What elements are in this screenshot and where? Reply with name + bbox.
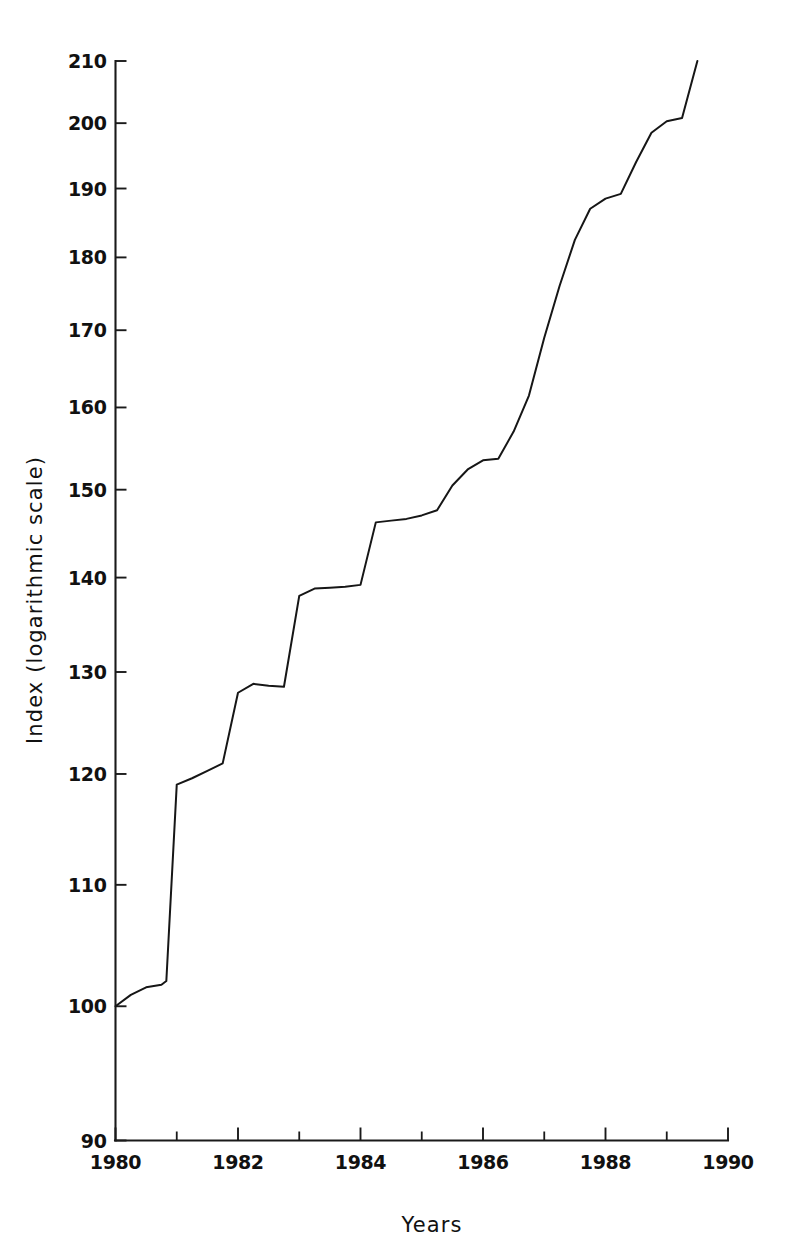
y-tick-label-160: 160 [68,396,107,418]
y-axis-title: Index (logarithmic scale) [23,456,47,744]
y-tick-label-110: 110 [68,874,107,896]
y-tick-label-210: 210 [68,50,107,72]
chart-plot-area: 90100110120130140150160170180190200210 1… [0,0,810,1250]
y-tick-label-90: 90 [81,1130,107,1152]
x-tick-label-1984: 1984 [335,1151,386,1173]
x-axis-tick-labels: 198019821984198619881990 [90,1151,754,1173]
y-tick-label-150: 150 [68,479,107,501]
x-axis-ticks [116,1128,729,1141]
x-tick-label-1988: 1988 [580,1151,631,1173]
y-tick-label-120: 120 [68,763,107,785]
y-tick-label-100: 100 [68,995,107,1017]
x-tick-label-1986: 1986 [457,1151,508,1173]
data-series-line [116,61,698,1006]
y-tick-label-140: 140 [68,567,107,589]
x-tick-label-1982: 1982 [212,1151,263,1173]
x-axis-title: Years [401,1213,463,1237]
y-tick-label-200: 200 [68,112,107,134]
x-tick-label-1990: 1990 [702,1151,753,1173]
x-tick-label-1980: 1980 [90,1151,141,1173]
y-tick-label-170: 170 [68,319,107,341]
y-axis-tick-labels: 90100110120130140150160170180190200210 [68,50,107,1152]
y-tick-label-190: 190 [68,178,107,200]
y-axis-ticks [116,61,127,1141]
y-tick-label-130: 130 [68,661,107,683]
y-tick-label-180: 180 [68,246,107,268]
chart-figure: 90100110120130140150160170180190200210 1… [0,0,810,1250]
